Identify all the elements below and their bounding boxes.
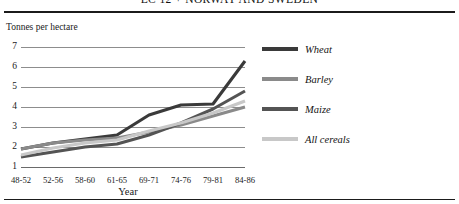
series-lines bbox=[6, 40, 250, 175]
x-tick-label: 79-81 bbox=[203, 176, 223, 185]
legend-label: Maize bbox=[305, 104, 331, 115]
figure-title: EC 12 + NORWAY AND SWEDEN bbox=[0, 0, 459, 5]
x-tick-label: 69-71 bbox=[139, 176, 159, 185]
legend-item-maize[interactable]: Maize bbox=[262, 102, 331, 116]
legend-item-wheat[interactable]: Wheat bbox=[262, 42, 332, 56]
bottom-divider bbox=[4, 199, 455, 200]
plot-area: 7654321 bbox=[6, 40, 250, 175]
x-tick-label: 74-76 bbox=[171, 176, 191, 185]
x-tick-label: 61-65 bbox=[107, 176, 127, 185]
x-tick-label: 52-56 bbox=[43, 176, 63, 185]
legend-label: Wheat bbox=[305, 44, 332, 55]
legend-item-all-cereals[interactable]: All cereals bbox=[262, 132, 350, 146]
legend-swatch bbox=[262, 77, 298, 81]
x-tick-label: 84-86 bbox=[235, 176, 255, 185]
y-axis-caption: Tonnes per hectare bbox=[6, 22, 78, 32]
x-axis-label: Year bbox=[6, 186, 250, 197]
x-tick-label: 48-52 bbox=[11, 176, 31, 185]
legend-swatch bbox=[262, 137, 298, 141]
chart-figure: EC 12 + NORWAY AND SWEDEN Tonnes per hec… bbox=[0, 0, 459, 204]
legend-swatch bbox=[262, 47, 298, 51]
legend-label: All cereals bbox=[305, 134, 350, 145]
legend-label: Barley bbox=[305, 74, 333, 85]
top-divider bbox=[4, 11, 455, 13]
legend-item-barley[interactable]: Barley bbox=[262, 72, 333, 86]
legend-swatch bbox=[262, 107, 298, 111]
x-tick-label: 58-60 bbox=[75, 176, 95, 185]
